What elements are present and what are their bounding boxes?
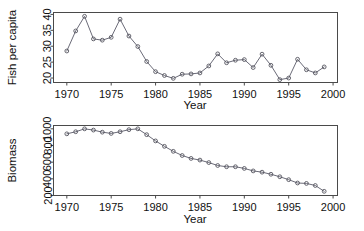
x-tick-label: 1975 — [99, 88, 123, 100]
biomass-x-tick-labels: 1970197519801985199019952000 — [55, 201, 346, 213]
y-tick-label: 30 — [42, 40, 54, 52]
x-tick-label: 1985 — [188, 201, 212, 213]
x-tick-label: 1995 — [276, 201, 300, 213]
y-tick-label: 25 — [42, 56, 54, 68]
x-tick-label: 1990 — [232, 201, 256, 213]
biomass-y-axis-title: Biomass — [6, 138, 18, 182]
x-tick-label: 1970 — [55, 201, 79, 213]
y-tick-label: 1000 — [42, 117, 54, 141]
biomass-x-axis-title: Year — [183, 213, 206, 225]
x-tick-label: 1980 — [143, 201, 167, 213]
x-tick-label: 1975 — [99, 201, 123, 213]
y-tick-label: 400 — [42, 170, 54, 188]
fish-axes-box — [54, 13, 338, 83]
fish-plot-frame — [54, 13, 338, 83]
biomass-data-line — [67, 129, 324, 192]
x-tick-label: 1985 — [188, 88, 212, 100]
biomass-axes-box — [54, 126, 338, 196]
biomass-data-points — [65, 127, 326, 193]
fish-y-axis-title: Fish per capita — [6, 9, 18, 85]
x-tick-label: 1980 — [143, 88, 167, 100]
y-tick-label: 200 — [42, 186, 54, 204]
fish-per-capita-svg: 2025303540 1970197519801985199019952000 … — [0, 0, 364, 115]
x-tick-label: 2000 — [321, 88, 345, 100]
x-tick-label: 2000 — [321, 201, 345, 213]
y-tick-label: 20 — [42, 72, 54, 84]
fish-x-tick-labels: 1970197519801985199019952000 — [55, 88, 346, 100]
y-tick-label: 40 — [42, 8, 54, 20]
fish-x-axis-title: Year — [183, 99, 206, 111]
fish-y-tick-labels: 2025303540 — [42, 8, 54, 84]
x-tick-label: 1970 — [55, 88, 79, 100]
chart-panel-fish-per-capita: 2025303540 1970197519801985199019952000 … — [0, 0, 364, 115]
fish-data-points — [65, 14, 326, 81]
figure-container: 2025303540 1970197519801985199019952000 … — [0, 0, 364, 231]
x-tick-label: 1995 — [276, 88, 300, 100]
y-tick-label: 35 — [42, 24, 54, 36]
biomass-svg: 2004006008001000 19701975198019851990199… — [0, 112, 364, 231]
fish-data-line — [67, 16, 324, 79]
chart-panel-biomass: 2004006008001000 19701975198019851990199… — [0, 112, 364, 231]
y-tick-label: 600 — [42, 153, 54, 171]
x-tick-label: 1990 — [232, 88, 256, 100]
biomass-plot-frame — [54, 126, 338, 196]
biomass-y-tick-labels: 2004006008001000 — [42, 117, 54, 205]
